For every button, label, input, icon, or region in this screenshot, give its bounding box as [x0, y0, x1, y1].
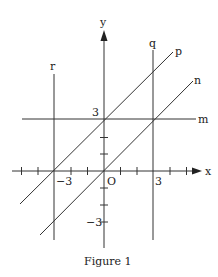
y-tick-label-pos3: 3: [92, 106, 99, 119]
line-n: [40, 81, 193, 235]
line-p-label: p: [175, 45, 182, 58]
coordinate-diagram: y x O −3 3 3 −3 r q p n m Figure 1: [0, 0, 218, 277]
x-tick-label-neg3: −3: [56, 175, 72, 188]
line-n-label: n: [194, 74, 201, 87]
line-r-label: r: [50, 60, 56, 73]
y-axis-label: y: [99, 16, 107, 29]
y-tick-label-neg3: −3: [86, 216, 102, 229]
line-p: [20, 52, 173, 204]
figure-caption: Figure 1: [84, 255, 132, 268]
x-axis-label: x: [205, 165, 212, 178]
origin-label: O: [107, 175, 116, 188]
x-tick-label-pos3: 3: [155, 175, 162, 188]
line-q-label: q: [149, 37, 156, 50]
x-axis-arrow-icon: [192, 168, 202, 175]
line-m-label: m: [198, 113, 209, 126]
y-axis-arrow-icon: [101, 30, 108, 41]
